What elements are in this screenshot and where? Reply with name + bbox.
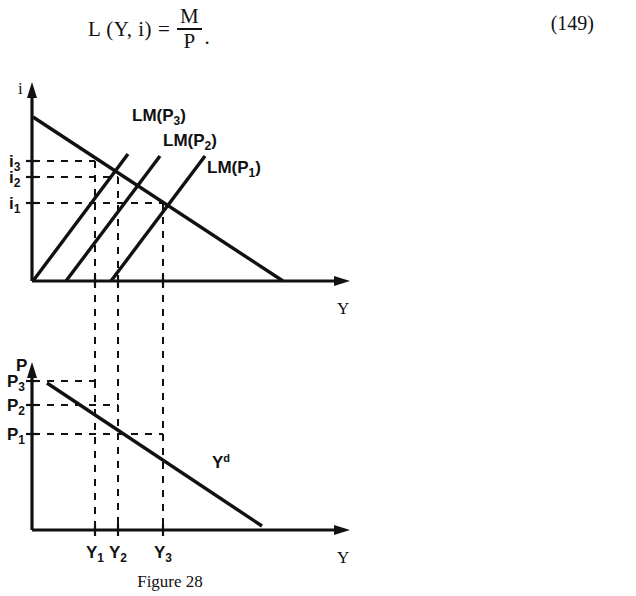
bottom-chart-x-tick-label-y3: Y3 — [154, 543, 172, 565]
bottom-chart-x-axis-arrow-icon — [334, 525, 350, 535]
top-chart-x-axis-label: Y — [337, 299, 349, 318]
inter-chart-connectors — [95, 281, 163, 434]
equation-period: . — [205, 25, 210, 52]
top-chart-y-tick-label-i1: i1 — [9, 194, 21, 216]
top-chart-y-axis-arrow-icon — [27, 82, 37, 98]
equation-number: (149) — [551, 12, 594, 35]
lm-p2-label: LM(P2) — [163, 131, 217, 153]
equation-lhs: L (Y, i) — [88, 17, 152, 42]
bottom-chart-x-axis-label: Y — [337, 548, 349, 567]
equation-equals-sign: = — [158, 17, 170, 42]
lm-p1-curve — [111, 156, 205, 281]
fraction-denominator: P — [180, 30, 198, 52]
top-chart-is-lm: i Y i3 i2 i1 LM(P3) LM(P2) LM(P1) — [9, 79, 350, 318]
top-chart-y-axis-label: i — [18, 79, 23, 98]
bottom-chart-x-tick-label-y2: Y2 — [109, 543, 127, 565]
lm-p1-label: LM(P1) — [207, 158, 261, 180]
lm-p3-label: LM(P3) — [132, 106, 186, 128]
bottom-chart-aggregate-demand: P Y P3 P2 P1 Y1 Y2 Y3 Y — [7, 356, 350, 567]
bottom-chart-y-tick-label-p1: P1 — [7, 425, 25, 447]
equation-expression: L (Y, i) = M P . — [88, 6, 210, 52]
bottom-chart-y-tick-label-p2: P2 — [7, 396, 25, 418]
bottom-chart-y-axis-arrow-icon — [27, 362, 37, 378]
bottom-chart-y-tick-label-p3: P3 — [7, 372, 25, 394]
aggregate-demand-curve-label: Yd — [212, 452, 230, 472]
figure-page: L (Y, i) = M P . (149) — [0, 0, 636, 596]
is-curve — [33, 117, 283, 281]
economics-figure: i Y i3 i2 i1 LM(P3) LM(P2) LM(P1) — [0, 66, 636, 572]
equation-fraction: M P — [177, 6, 202, 52]
bottom-chart-x-tick-label-y1: Y1 — [86, 543, 104, 565]
equation-block: L (Y, i) = M P . (149) — [0, 0, 636, 66]
top-chart-x-axis-arrow-icon — [334, 276, 350, 286]
fraction-numerator: M — [177, 6, 202, 28]
figure-caption: Figure 28 — [0, 572, 340, 596]
